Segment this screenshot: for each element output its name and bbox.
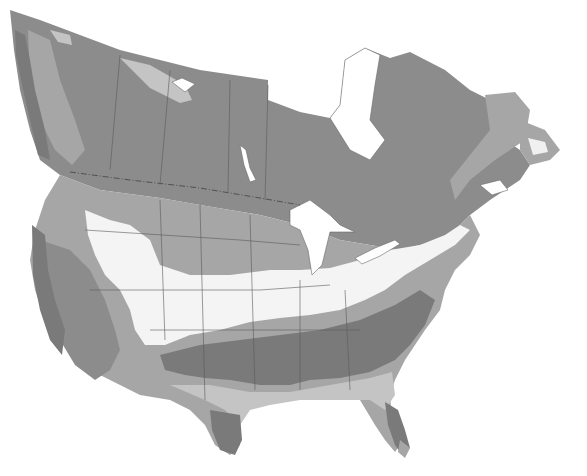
zone-texas-south — [210, 410, 242, 455]
map-svg — [0, 0, 587, 476]
north-america-zone-map: North America (Canada, United States) — [0, 0, 587, 476]
